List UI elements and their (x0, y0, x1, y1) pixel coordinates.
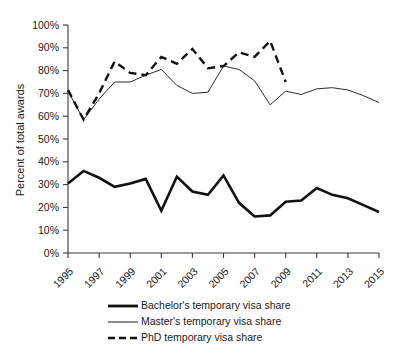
legend-label-3: PhD temporary visa share (141, 331, 263, 343)
y-tick-label: 30% (38, 178, 59, 190)
y-tick-label: 10% (38, 224, 59, 236)
x-tick-label: 2011 (300, 265, 325, 290)
y-tick-label: 60% (38, 110, 59, 122)
series-line-2 (68, 66, 379, 120)
x-axis-ticks: 1995199719992001200320052007200920112013… (50, 253, 386, 290)
series-line-1 (68, 171, 379, 217)
x-tick-label: 2005 (206, 265, 231, 290)
x-tick-label: 2013 (330, 265, 355, 290)
y-tick-label: 40% (38, 155, 59, 167)
y-tick-label: 70% (38, 87, 59, 99)
y-tick-label: 80% (38, 64, 59, 76)
legend-label-1: Bachelor's temporary visa share (141, 299, 291, 311)
y-axis-title: Percent of total awards (14, 83, 26, 196)
y-axis-ticks: 0%10%20%30%40%50%60%70%80%90%100% (32, 19, 68, 259)
line-chart: Percent of total awards 0%10%20%30%40%50… (0, 0, 403, 356)
legend-label-2: Master's temporary visa share (141, 315, 281, 327)
x-tick-label: 1995 (50, 265, 75, 290)
chart-container: Percent of total awards 0%10%20%30%40%50… (0, 0, 403, 356)
x-tick-label: 1997 (82, 265, 107, 290)
x-tick-label: 2009 (268, 265, 293, 290)
x-tick-label: 2015 (361, 265, 386, 290)
y-tick-label: 0% (44, 247, 59, 259)
y-tick-label: 50% (38, 133, 59, 145)
x-tick-label: 2003 (175, 265, 200, 290)
x-tick-label: 2001 (144, 265, 169, 290)
x-tick-label: 1999 (113, 265, 138, 290)
y-axis-title-group: Percent of total awards (14, 83, 26, 196)
y-tick-label: 100% (32, 19, 59, 31)
y-tick-label: 20% (38, 201, 59, 213)
chart-legend: Bachelor's temporary visa shareMaster's … (108, 299, 291, 343)
series-paths-group (68, 41, 379, 217)
x-tick-label: 2007 (237, 265, 262, 290)
y-tick-label: 90% (38, 41, 59, 53)
